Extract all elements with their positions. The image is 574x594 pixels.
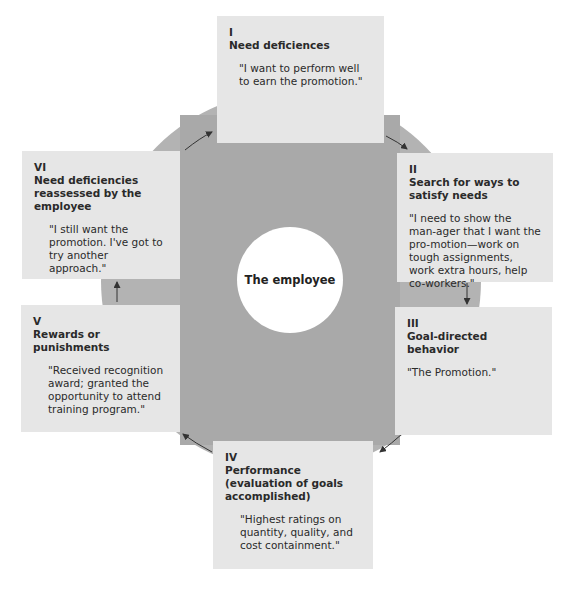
stage-5-box: V Rewards or punishments "Received recog…	[21, 305, 180, 432]
stage-3-box: III Goal-directed behavior "The Promotio…	[395, 307, 552, 435]
stage-6-box: VI Need deficiencies reassessed by the e…	[22, 151, 180, 279]
stage-quote: "Received recognition award; granted the…	[33, 364, 168, 416]
stage-numeral: V	[33, 315, 168, 328]
stage-quote: "I need to show the man-ager that I want…	[409, 212, 541, 290]
arrow-vi-to-i	[185, 132, 212, 150]
arrow-i-to-ii	[386, 136, 407, 149]
stage-title: Performance (evaluation of goals accompl…	[225, 464, 361, 503]
stage-numeral: IV	[225, 451, 361, 464]
stage-4-box: IV Performance (evaluation of goals acco…	[213, 441, 373, 569]
stage-title: Search for ways to satisfy needs	[409, 176, 541, 202]
stage-title: Need deficiences	[229, 39, 372, 52]
arrow-iii-to-iv	[380, 434, 402, 452]
stage-numeral: III	[407, 317, 540, 330]
stage-title: Rewards or punishments	[33, 328, 168, 354]
stage-numeral: II	[409, 163, 541, 176]
stage-quote: "The Promotion."	[407, 366, 540, 379]
stage-title: Need deficiencies reassessed by the empl…	[34, 174, 168, 213]
stage-numeral: I	[229, 26, 372, 39]
arrow-iv-to-v	[183, 434, 212, 452]
stage-quote: "I still want the promotion. I've got to…	[34, 223, 168, 275]
stage-title: Goal-directed behavior	[407, 330, 540, 356]
stage-2-box: II Search for ways to satisfy needs "I n…	[397, 153, 553, 282]
stage-numeral: VI	[34, 161, 168, 174]
stage-1-box: I Need deficiences "I want to perform we…	[217, 16, 384, 143]
stage-quote: "I want to perform well to earn the prom…	[229, 62, 372, 88]
stage-quote: "Highest ratings on quantity, quality, a…	[225, 513, 361, 552]
